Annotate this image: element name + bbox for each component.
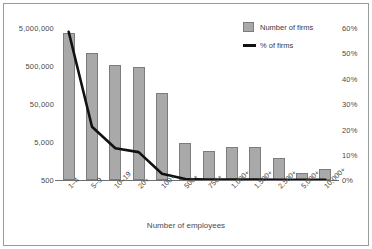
bar (133, 67, 145, 180)
legend-item-number-of-firms: Number of firms (243, 22, 343, 32)
y-axis-right-tick-label: 50% (342, 49, 368, 58)
bar (109, 65, 121, 180)
y-axis-right-tick-label: 60% (342, 24, 368, 33)
chart-figure: 5,000,000 500,000 50,000 5,000 500 60% 5… (0, 0, 372, 249)
y-axis-right-tick-label: 30% (342, 100, 368, 109)
bar-swatch-icon (243, 22, 254, 32)
bar (63, 33, 75, 180)
y-axis-right-tick-label: 0% (342, 176, 368, 185)
y-axis-left-tick-label: 50,000 (2, 100, 54, 109)
bar (86, 53, 98, 180)
legend-item-percent-of-firms: % of firms (243, 40, 343, 50)
y-axis-left-tick-label: 5,000 (2, 138, 54, 147)
bar (179, 143, 191, 180)
bar (156, 93, 168, 180)
y-axis-right-tick-label: 40% (342, 75, 368, 84)
chart-legend: Number of firms % of firms (243, 22, 343, 58)
line-swatch-icon (243, 44, 256, 47)
y-axis-right-tick-label: 10% (342, 151, 368, 160)
x-axis-title: Number of employees (0, 221, 372, 230)
chart-canvas: 5,000,000 500,000 50,000 5,000 500 60% 5… (0, 0, 372, 249)
y-axis-left-tick-label: 5,000,000 (2, 24, 54, 33)
legend-label: % of firms (260, 41, 293, 50)
legend-label: Number of firms (260, 23, 313, 32)
y-axis-left-tick-label: 500 (2, 176, 54, 185)
y-axis-right-tick-label: 20% (342, 126, 368, 135)
y-axis-left-tick-label: 500,000 (2, 62, 54, 71)
